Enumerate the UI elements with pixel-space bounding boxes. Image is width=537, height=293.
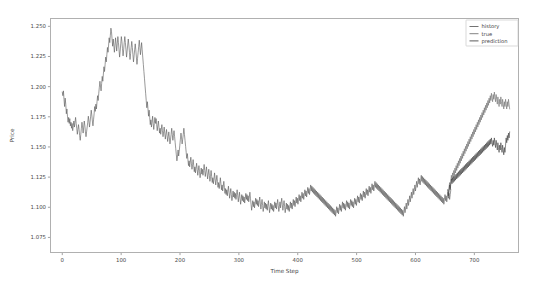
- y-axis-label: Price: [9, 128, 15, 142]
- x-tick-label: 400: [293, 257, 304, 263]
- x-tick-label: 300: [234, 257, 245, 263]
- legend-label-history[interactable]: history: [482, 23, 500, 30]
- y-tick-label: 1.225: [31, 53, 46, 59]
- chart-figure: 1.0751.1001.1251.1501.1751.2001.2251.250…: [0, 0, 537, 293]
- axes-background: [51, 19, 519, 253]
- x-tick-label: 500: [351, 257, 362, 263]
- y-tick-label: 1.250: [31, 23, 47, 29]
- x-tick-label: 600: [410, 257, 421, 263]
- x-tick-label: 700: [469, 257, 480, 263]
- y-tick-label: 1.125: [31, 174, 46, 180]
- y-tick-label: 1.175: [31, 114, 46, 120]
- x-axis-label: Time Step: [269, 268, 299, 275]
- y-tick-label: 1.200: [31, 84, 47, 90]
- y-tick-label: 1.100: [31, 204, 47, 210]
- price-forecast-chart: 1.0751.1001.1251.1501.1751.2001.2251.250…: [0, 0, 537, 293]
- y-tick-label: 1.150: [31, 144, 47, 150]
- x-tick-label: 200: [175, 257, 186, 263]
- legend-label-prediction[interactable]: prediction: [482, 38, 508, 45]
- y-tick-label: 1.075: [31, 234, 46, 240]
- x-tick-label: 0: [61, 257, 65, 263]
- chart-legend[interactable]: historytrueprediction: [466, 20, 518, 46]
- legend-label-true[interactable]: true: [482, 31, 493, 37]
- x-tick-label: 100: [116, 257, 127, 263]
